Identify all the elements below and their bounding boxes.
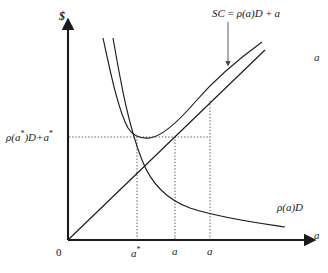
x-tick-a-star-text: a* <box>131 247 141 259</box>
x-tick-a-hat-text: â <box>172 246 178 257</box>
rho-label-text: ρ(a)D <box>277 201 303 213</box>
x-tick-label-a-hat: â <box>172 246 178 257</box>
social-cost-curve-label: SC = ρ(a)D + a <box>212 8 280 19</box>
x-axis-label: a <box>314 230 320 241</box>
y-axis-label: $ <box>59 10 65 22</box>
x-tick-label-a-star: a* <box>131 246 141 259</box>
expected-damage-curve <box>113 38 285 227</box>
y-tick-text: ρ(a*)D+a* <box>6 131 53 143</box>
forty-five-degree-line <box>69 50 265 239</box>
forty-five-degree-line-label: a <box>314 52 320 63</box>
sc-label-text: SC = ρ(a)D + a <box>212 7 280 19</box>
x-tick-a-bar-text: a̅ <box>207 246 213 257</box>
y-tick-label-min-social-cost: ρ(a*)D+a* <box>6 130 53 143</box>
social-cost-curve <box>103 38 262 138</box>
x-tick-label-a-bar: a̅ <box>207 246 213 257</box>
expected-damage-curve-label: ρ(a)D <box>277 202 303 213</box>
social-cost-diagram: $ a 0 SC = ρ(a)D + a a ρ(a)D ρ(a*)D+a* a… <box>0 0 328 273</box>
origin-label: 0 <box>56 247 62 258</box>
